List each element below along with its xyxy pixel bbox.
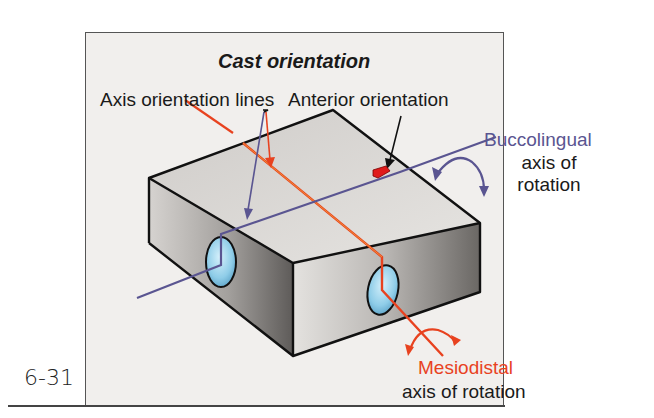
buccolingual-rotation-arrow-icon (437, 158, 484, 190)
label-buccolingual-axis-1: axis of (509, 152, 589, 174)
label-buccolingual: Buccolingual (484, 129, 592, 151)
label-mesiodistal: Mesiodistal (418, 357, 513, 379)
label-mesiodistal-axis: axis of rotation (402, 381, 526, 403)
label-axis-orientation-lines: Axis orientation lines (100, 89, 274, 111)
label-anterior-orientation: Anterior orientation (288, 89, 449, 111)
anterior-pointer-line (390, 116, 401, 160)
mesiodistal-arrowhead-right-icon (451, 335, 461, 346)
mesiodistal-rotation-arrow-icon (410, 329, 455, 350)
diagram-title: Cast orientation (218, 50, 370, 72)
buccolingual-arrowhead-right-icon (479, 186, 489, 197)
label-buccolingual-axis-2: rotation (504, 174, 594, 196)
